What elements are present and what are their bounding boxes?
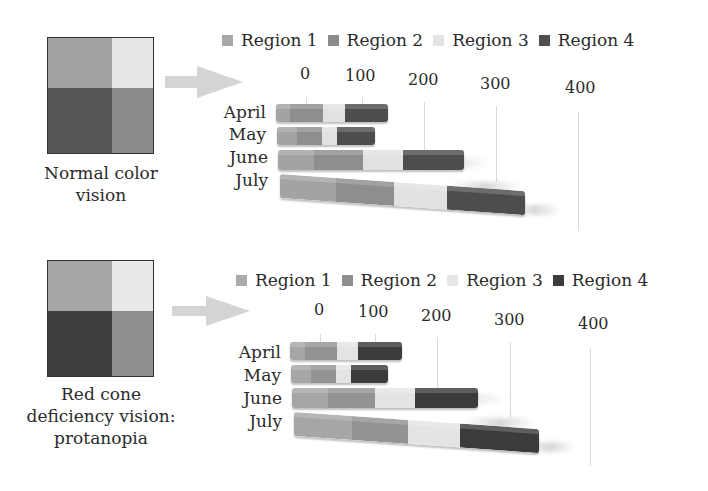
legend-label: Region 2 — [361, 270, 438, 290]
bar-segment-region-2 — [352, 416, 408, 444]
legend-label: Region 1 — [241, 30, 318, 50]
legend-item-region-2: Region 2 — [328, 30, 424, 50]
bar-segment-region-4 — [403, 150, 464, 170]
caption-line: vision — [30, 184, 172, 206]
swatch-bottom-right — [112, 88, 153, 153]
bar-segment-region-1 — [278, 150, 314, 170]
month-label: April — [221, 342, 281, 362]
swatch-bottom-right — [112, 311, 153, 376]
bar-segment-region-4 — [415, 388, 478, 408]
bar-may — [291, 365, 388, 383]
bar-april — [290, 342, 402, 360]
color-swatch-grid-normal — [47, 37, 154, 154]
legend-label: Region 4 — [572, 270, 649, 290]
caption-line: Normal color — [30, 162, 172, 184]
legend-swatch-icon — [553, 275, 564, 286]
arrow-right-icon — [165, 66, 245, 98]
bar-segment-region-3 — [375, 388, 415, 408]
legend-item-region-1: Region 1 — [236, 270, 332, 290]
bar-segment-region-2 — [290, 104, 323, 122]
axis-tick: 300 — [480, 74, 511, 93]
axis-tick: 100 — [345, 66, 376, 85]
axis-tick: 400 — [578, 314, 609, 333]
bar-segment-region-1 — [292, 388, 328, 408]
month-label: July — [222, 411, 282, 431]
bar-segment-region-2 — [297, 127, 322, 145]
bar-segment-region-3 — [363, 150, 403, 170]
bar-segment-region-2 — [305, 342, 337, 360]
arrow-right-icon — [172, 296, 252, 326]
bar-segment-region-3 — [408, 420, 460, 448]
legend-item-region-3: Region 3 — [447, 270, 543, 290]
month-label: June — [208, 147, 268, 167]
gridline — [510, 342, 511, 418]
bar-segment-region-1 — [280, 174, 336, 202]
bar-segment-region-4 — [460, 424, 539, 454]
legend-label: Region 2 — [347, 30, 424, 50]
gridline — [496, 106, 497, 182]
legend-swatch-icon — [342, 275, 353, 286]
month-label: July — [208, 170, 268, 190]
bar-segment-region-3 — [336, 365, 351, 383]
bar-segment-region-1 — [290, 342, 305, 360]
bar-segment-region-2 — [311, 365, 336, 383]
legend-item-region-1: Region 1 — [222, 30, 318, 50]
swatch-bottom-left — [48, 88, 112, 153]
bar-segment-region-3 — [337, 342, 358, 360]
bar-segment-region-3 — [322, 127, 337, 145]
panel-protanopia-vision: Red cone deficiency vision: protanopia R… — [0, 250, 708, 491]
bar-april — [276, 104, 388, 122]
month-label: May — [206, 124, 266, 144]
legend: Region 1 Region 2 Region 3 Region 4 — [222, 30, 644, 50]
axis-tick: 400 — [565, 78, 596, 97]
caption-line: protanopia — [22, 427, 180, 449]
caption-line: deficiency vision: — [22, 405, 180, 427]
caption-normal: Normal color vision — [30, 162, 172, 206]
legend-swatch-icon — [222, 35, 233, 46]
bar-segment-region-1 — [277, 127, 297, 145]
axis-tick: 300 — [494, 310, 525, 329]
legend-label: Region 3 — [466, 270, 543, 290]
bar-segment-region-1 — [276, 104, 290, 122]
bar-segment-region-3 — [394, 182, 447, 210]
legend-item-region-4: Region 4 — [553, 270, 649, 290]
swatch-top-right — [112, 261, 153, 311]
panel-normal-vision: Normal color vision Region 1 Region 2 Re… — [0, 0, 708, 245]
gridline — [578, 112, 579, 230]
bar-may — [277, 127, 375, 145]
color-swatch-grid-protanopia — [47, 260, 154, 377]
caption-line: Red cone — [22, 383, 180, 405]
month-label: April — [206, 102, 266, 122]
swatch-top-left — [48, 261, 112, 311]
swatch-top-right — [112, 38, 153, 88]
axis-tick: 200 — [421, 306, 452, 325]
gridline — [590, 348, 591, 466]
legend-swatch-icon — [539, 35, 550, 46]
caption-protanopia: Red cone deficiency vision: protanopia — [22, 383, 180, 449]
bar-segment-region-3 — [323, 104, 345, 122]
bar-segment-region-2 — [336, 178, 394, 206]
bar-june — [278, 150, 464, 170]
axis-tick: 100 — [358, 302, 389, 321]
legend-item-region-2: Region 2 — [342, 270, 438, 290]
bar-segment-region-4 — [358, 342, 402, 360]
bar-segment-region-1 — [294, 412, 352, 440]
legend: Region 1 Region 2 Region 3 Region 4 — [236, 270, 658, 290]
legend-item-region-3: Region 3 — [433, 30, 529, 50]
bar-segment-region-4 — [345, 104, 388, 122]
legend-swatch-icon — [236, 275, 247, 286]
legend-swatch-icon — [328, 35, 339, 46]
bar-segment-region-4 — [447, 186, 525, 215]
bar-segment-region-1 — [291, 365, 311, 383]
legend-label: Region 3 — [452, 30, 529, 50]
month-label: May — [221, 365, 281, 385]
month-label: June — [222, 388, 282, 408]
legend-label: Region 4 — [558, 30, 635, 50]
bar-segment-region-4 — [351, 365, 388, 383]
legend-swatch-icon — [447, 275, 458, 286]
bar-segment-region-2 — [314, 150, 363, 170]
bar-segment-region-2 — [328, 388, 375, 408]
bar-july — [280, 174, 525, 215]
bar-segment-region-4 — [337, 127, 375, 145]
swatch-bottom-left — [48, 311, 112, 376]
